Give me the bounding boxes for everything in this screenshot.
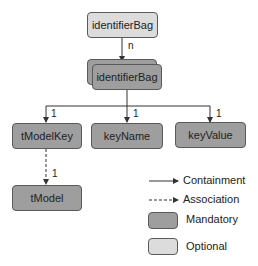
node-tmodelkey: tModelKey: [12, 123, 82, 149]
legend-mandatory-swatch: [148, 212, 178, 229]
cardinality-keyvalue: 1: [216, 108, 222, 119]
legend-association-label: Association: [183, 193, 239, 205]
cardinality-n: n: [128, 40, 134, 51]
legend-optional-label: Optional: [186, 240, 227, 252]
node-label: keyValue: [188, 129, 232, 141]
node-keyname: keyName: [91, 123, 163, 149]
legend-containment-label: Containment: [183, 174, 245, 186]
node-label: tModelKey: [21, 130, 73, 142]
node-label: keyName: [104, 130, 150, 142]
node-identifierbag-optional: identifierBag: [87, 12, 158, 38]
node-tmodel: tModel: [12, 185, 82, 211]
node-label: identifierBag: [92, 19, 153, 31]
legend-optional-swatch: [148, 238, 178, 255]
node-keyvalue: keyValue: [175, 122, 246, 148]
cardinality-tmodel: 1: [52, 168, 58, 179]
legend-mandatory-label: Mandatory: [186, 213, 238, 225]
node-label: tModel: [30, 192, 63, 204]
node-label: identifierBag: [96, 71, 157, 83]
cardinality-keyname: 1: [133, 108, 139, 119]
cardinality-tmodelkey: 1: [51, 108, 57, 119]
node-identifierbag-mandatory: identifierBag: [92, 64, 162, 90]
